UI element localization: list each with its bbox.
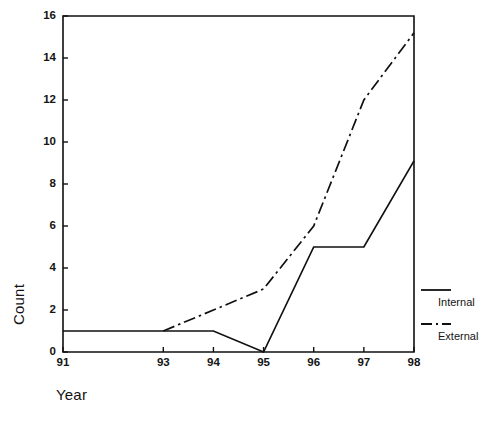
legend-label-internal: Internal	[438, 296, 475, 308]
axis-frame	[63, 16, 414, 352]
series-line-external	[163, 33, 414, 331]
series-line-internal	[63, 161, 414, 352]
legend-entry-internal: Internal	[420, 282, 496, 316]
line-chart-figure: Count Year 0246810121416 91939495969798 …	[0, 0, 496, 426]
data-series-group	[63, 33, 414, 352]
chart-legend: Internal External	[420, 282, 496, 350]
legend-label-external: External	[438, 330, 478, 342]
legend-entry-external: External	[420, 316, 496, 350]
axis-tick-marks	[63, 16, 414, 352]
plot-area	[0, 0, 496, 426]
legend-swatch-solid	[420, 286, 452, 294]
legend-swatch-dashdot	[420, 320, 452, 328]
